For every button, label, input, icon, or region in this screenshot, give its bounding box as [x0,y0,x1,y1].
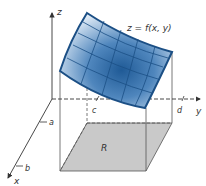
tick-c-label: c [92,106,97,115]
double-integral-diagram: z y x a b c d z = f(x, y) R [0,0,206,186]
y-axis-label: y [195,106,202,116]
tick-d [182,96,184,101]
surface-label: z = f(x, y) [126,23,172,33]
region-r [60,123,172,171]
region-label: R [101,143,107,153]
tick-a-label: a [49,118,54,127]
tick-b-label: b [25,164,30,173]
tick-c [96,96,99,101]
tick-d-label: d [177,106,183,115]
x-axis-label: x [13,176,20,186]
z-axis-label: z [56,7,62,17]
